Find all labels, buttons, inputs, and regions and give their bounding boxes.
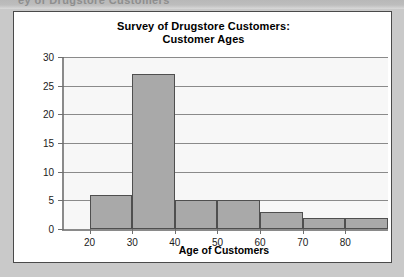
y-tick-mark-5	[58, 200, 64, 201]
y-tick-mark-15	[58, 143, 64, 144]
chart-title-line-1: Survey of Drugstore Customers:	[14, 20, 393, 33]
plot-area: 05101520253020304050607080	[62, 57, 388, 231]
gridline-y-10	[64, 172, 388, 173]
bar-70-80	[303, 218, 346, 229]
y-tick-label-0: 0	[48, 224, 54, 235]
x-tick-mark-30	[132, 229, 133, 234]
scan-top-strip: ey of Drugstore Customers	[0, 0, 404, 9]
x-tick-mark-20	[90, 229, 91, 234]
y-tick-mark-10	[58, 172, 64, 173]
y-tick-mark-20	[58, 114, 64, 115]
gridline-y-30	[64, 57, 388, 58]
bar-50-60	[217, 200, 260, 229]
y-tick-label-15: 15	[43, 138, 54, 149]
y-tick-mark-30	[58, 57, 64, 58]
y-tick-label-25: 25	[43, 80, 54, 91]
y-tick-label-5: 5	[48, 195, 54, 206]
bar-80-90	[345, 218, 388, 229]
x-tick-mark-70	[303, 229, 304, 234]
y-tick-label-20: 20	[43, 109, 54, 120]
gridline-y-20	[64, 114, 388, 115]
bar-20-30	[90, 195, 133, 229]
chart-title: Survey of Drugstore Customers: Customer …	[14, 20, 393, 46]
y-tick-mark-25	[58, 86, 64, 87]
y-tick-label-30: 30	[43, 52, 54, 63]
x-axis-title: Age of Customers	[62, 244, 386, 256]
bar-40-50	[175, 200, 218, 229]
bar-30-40	[132, 74, 175, 229]
scan-ghost-text: ey of Drugstore Customers	[18, 0, 170, 6]
y-tick-label-10: 10	[43, 166, 54, 177]
plot-inner: 05101520253020304050607080	[64, 57, 388, 229]
bar-60-70	[260, 212, 303, 229]
x-tick-mark-40	[175, 229, 176, 234]
y-tick-mark-0	[58, 229, 64, 230]
gridline-y-25	[64, 86, 388, 87]
x-tick-mark-80	[345, 229, 346, 234]
x-tick-mark-50	[217, 229, 218, 234]
chart-title-line-2: Customer Ages	[14, 33, 393, 46]
x-tick-mark-60	[260, 229, 261, 234]
gridline-y-15	[64, 143, 388, 144]
chart-card: Survey of Drugstore Customers: Customer …	[13, 11, 392, 263]
